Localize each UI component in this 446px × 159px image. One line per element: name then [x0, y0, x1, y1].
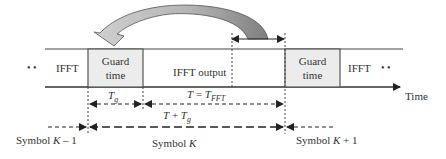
symbol-prev-suffix: – 1	[60, 134, 77, 146]
symbol-next-prefix: Symbol	[296, 134, 333, 146]
t-plus-tg-plus: +	[169, 109, 181, 121]
t-fft-label: T = TFFT	[187, 89, 225, 103]
t-plus-tg-label: T + Tg	[163, 110, 191, 124]
symbol-next-suffix: + 1	[340, 134, 357, 146]
guard-2-line2: time	[285, 68, 340, 82]
ofdm-guard-time-diagram: • • IFFT Guard time IFFT output Guard ti…	[0, 0, 446, 159]
guard-1-line2: time	[88, 68, 143, 82]
symbol-prev-prefix: Symbol	[16, 134, 53, 146]
guard-1-line1: Guard	[88, 54, 143, 68]
symbol-current-prefix: Symbol	[152, 137, 189, 149]
guard-2-label: Guard time	[285, 54, 340, 82]
right-ellipsis: • •	[381, 63, 391, 73]
t-fft-subscript: FFT	[211, 94, 225, 103]
cyclic-prefix-curved-arrow	[94, 5, 268, 46]
guard-1-label: Guard time	[88, 54, 143, 82]
guard-2-line1: Guard	[285, 54, 340, 68]
symbol-current-var: K	[189, 137, 196, 149]
tg-label: Tg	[108, 90, 118, 104]
ifft-output-label: IFFT output	[173, 67, 226, 78]
symbol-next-label: Symbol K + 1	[296, 135, 358, 146]
ifft-next-label: IFFT	[348, 63, 371, 74]
tg-subscript: g	[114, 95, 118, 104]
t-fft-eq: =	[193, 88, 205, 100]
symbol-prev-label: Symbol K – 1	[16, 135, 77, 146]
t-plus-tg-subscript: g	[187, 115, 191, 124]
time-axis-label: Time	[405, 91, 428, 102]
ifft-prev-label: IFFT	[56, 63, 79, 74]
left-ellipsis: • •	[27, 63, 37, 73]
symbol-current-label: Symbol K	[152, 138, 196, 149]
